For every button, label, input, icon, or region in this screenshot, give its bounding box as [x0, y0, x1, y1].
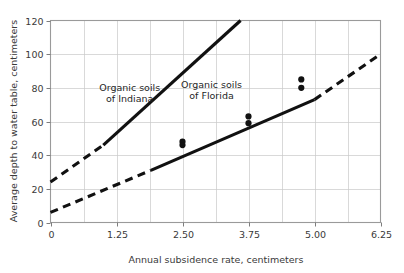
y-tick-label: 120: [25, 16, 43, 27]
x-axis-title: Annual subsidence rate, centimeters: [129, 254, 304, 265]
series-line-dashed: [51, 145, 104, 182]
plot-frame: [51, 21, 381, 223]
y-tick-label: 60: [31, 117, 43, 128]
series-annotation-line2: of Florida: [189, 90, 234, 101]
data-point: [245, 113, 251, 119]
x-tick-label: 0: [48, 229, 54, 240]
chart-figure: 01.252.503.755.006.25 020406080100120 Or…: [0, 0, 404, 273]
series-layer: [51, 21, 381, 213]
x-tick-label: 1.25: [107, 229, 128, 240]
x-tick-label: 6.25: [371, 229, 392, 240]
grid-layer: [51, 21, 381, 223]
x-tick-label: 2.50: [173, 229, 194, 240]
data-point: [298, 76, 304, 82]
series-line-dashed: [51, 170, 151, 212]
tick-marks: [47, 22, 382, 227]
x-tick-label: 5.00: [305, 229, 326, 240]
data-point: [179, 142, 185, 148]
data-point: [298, 85, 304, 91]
series-line-dashed: [315, 54, 381, 99]
series-annotation-line1: Organic soils: [181, 79, 242, 90]
y-axis-title: Average depth to water table, centimeter…: [8, 20, 19, 222]
y-tick-label: 80: [31, 83, 43, 94]
x-tick-label: 3.75: [239, 229, 260, 240]
y-tick-label: 0: [37, 218, 43, 229]
y-tick-label: 20: [31, 184, 43, 195]
y-tick-labels: 020406080100120: [25, 16, 43, 229]
y-tick-label: 100: [25, 49, 43, 60]
y-tick-label: 40: [31, 150, 43, 161]
series-line-solid: [151, 100, 315, 171]
series-annotation-line2: of Indiana: [106, 93, 153, 104]
data-point: [245, 120, 251, 126]
plot-border: [51, 21, 381, 223]
x-tick-labels: 01.252.503.755.006.25: [48, 229, 392, 240]
series-annotation-line1: Organic soils: [99, 82, 160, 93]
chart-canvas: 01.252.503.755.006.25 020406080100120 Or…: [0, 0, 404, 273]
